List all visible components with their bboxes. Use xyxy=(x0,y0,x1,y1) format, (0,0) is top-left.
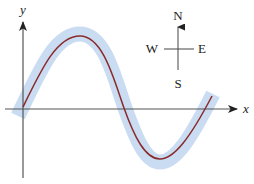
compass: N S W E xyxy=(146,8,206,91)
y-axis-label: y xyxy=(18,2,26,17)
compass-west-label: W xyxy=(146,41,159,56)
compass-north-label: N xyxy=(173,8,183,23)
diagram-canvas: y x N S W E xyxy=(0,0,254,184)
compass-east-label: E xyxy=(198,41,206,56)
compass-south-label: S xyxy=(174,76,181,91)
x-axis-label: x xyxy=(242,101,249,116)
